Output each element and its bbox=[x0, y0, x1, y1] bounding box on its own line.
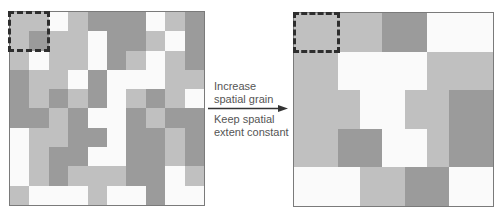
grid-cell bbox=[427, 13, 494, 52]
grid-cell bbox=[146, 166, 165, 185]
grid-cell bbox=[10, 31, 29, 50]
label-line: Increase bbox=[214, 80, 273, 93]
grid-cell bbox=[146, 128, 165, 147]
grid-cell bbox=[294, 129, 339, 168]
grid-cell bbox=[10, 70, 29, 89]
grid-cell bbox=[88, 31, 107, 50]
grid-cell bbox=[146, 70, 165, 89]
grid-cell bbox=[146, 108, 165, 127]
grid-cell bbox=[126, 128, 145, 147]
grid-cell bbox=[405, 90, 450, 129]
label-line: extent constant bbox=[214, 126, 289, 139]
grid-cell bbox=[107, 128, 126, 147]
grid-cell bbox=[165, 186, 184, 205]
grid-cell bbox=[49, 166, 68, 185]
grid-cell bbox=[185, 166, 204, 185]
grid-cell bbox=[29, 108, 48, 127]
grid-cell bbox=[294, 13, 339, 52]
grid-cell bbox=[126, 186, 145, 205]
grid-cell bbox=[49, 51, 68, 70]
grid-cell bbox=[49, 186, 68, 205]
grid-cell bbox=[126, 70, 145, 89]
grid-cell bbox=[126, 31, 145, 50]
grid-cell bbox=[165, 12, 184, 31]
grid-cell bbox=[107, 166, 126, 185]
grid-cell bbox=[165, 147, 184, 166]
grid-cell bbox=[10, 147, 29, 166]
grid-cell bbox=[49, 70, 68, 89]
grid-cell bbox=[338, 129, 383, 168]
grid-cell bbox=[68, 128, 87, 147]
grid-cell bbox=[68, 89, 87, 108]
grid-cell bbox=[360, 90, 405, 129]
grid-cell bbox=[294, 52, 339, 91]
grid-cell bbox=[49, 128, 68, 147]
grid-cell bbox=[449, 90, 494, 129]
grid-cell bbox=[49, 108, 68, 127]
grid-cell bbox=[185, 70, 204, 89]
grid-cell bbox=[29, 70, 48, 89]
fine-grain-grid bbox=[9, 11, 205, 206]
grid-cell bbox=[294, 167, 361, 206]
grid-cell bbox=[29, 51, 48, 70]
grid-cell bbox=[126, 147, 145, 166]
grid-cell bbox=[185, 108, 204, 127]
grid-cell bbox=[165, 166, 184, 185]
grid-cell bbox=[107, 186, 126, 205]
grid-cell bbox=[107, 12, 126, 31]
grid-cell bbox=[107, 31, 126, 50]
grid-cell bbox=[107, 51, 126, 70]
grid-cell bbox=[382, 13, 427, 52]
grid-cell bbox=[68, 31, 87, 50]
grid-cell bbox=[49, 31, 68, 50]
grid-cell bbox=[10, 166, 29, 185]
grid-cell bbox=[185, 89, 204, 108]
grid-cell bbox=[10, 12, 29, 31]
grid-cell bbox=[146, 147, 165, 166]
grid-cell bbox=[185, 51, 204, 70]
grid-cell bbox=[88, 186, 107, 205]
grid-cell bbox=[126, 51, 145, 70]
grid-cell bbox=[88, 70, 107, 89]
grid-cell bbox=[146, 12, 165, 31]
coarse-grain-grid bbox=[293, 12, 494, 207]
grid-cell bbox=[294, 90, 361, 129]
grid-cell bbox=[29, 166, 48, 185]
grid-cell bbox=[185, 12, 204, 31]
grid-cell bbox=[165, 89, 184, 108]
grid-cell bbox=[165, 31, 184, 50]
grid-cell bbox=[338, 52, 427, 91]
grid-cell bbox=[29, 186, 48, 205]
grid-cell bbox=[29, 31, 48, 50]
grid-cell bbox=[29, 89, 48, 108]
grid-cell bbox=[146, 89, 165, 108]
grid-cell bbox=[68, 12, 87, 31]
grid-cell bbox=[10, 108, 29, 127]
grid-cell bbox=[68, 51, 87, 70]
grid-cell bbox=[10, 89, 29, 108]
grid-cell bbox=[185, 128, 204, 147]
grid-cell bbox=[49, 147, 68, 166]
grid-cell bbox=[126, 89, 145, 108]
grid-cell bbox=[88, 51, 107, 70]
grid-cell bbox=[107, 108, 126, 127]
grid-cell bbox=[185, 147, 204, 166]
grid-cell bbox=[88, 89, 107, 108]
grid-cell bbox=[427, 129, 450, 168]
grid-cell bbox=[10, 128, 29, 147]
grid-cell bbox=[29, 128, 48, 147]
grid-cell bbox=[29, 12, 48, 31]
grid-cell bbox=[449, 167, 494, 206]
grid-cell bbox=[146, 186, 165, 205]
grid-cell bbox=[360, 167, 405, 206]
grid-cell bbox=[146, 31, 165, 50]
grid-cell bbox=[68, 108, 87, 127]
grid-cell bbox=[185, 186, 204, 205]
grid-cell bbox=[68, 186, 87, 205]
grid-cell bbox=[10, 186, 29, 205]
grid-cell bbox=[107, 70, 126, 89]
grid-cell bbox=[126, 166, 145, 185]
grid-cell bbox=[126, 108, 145, 127]
grid-cell bbox=[88, 128, 107, 147]
grid-cell bbox=[405, 167, 450, 206]
